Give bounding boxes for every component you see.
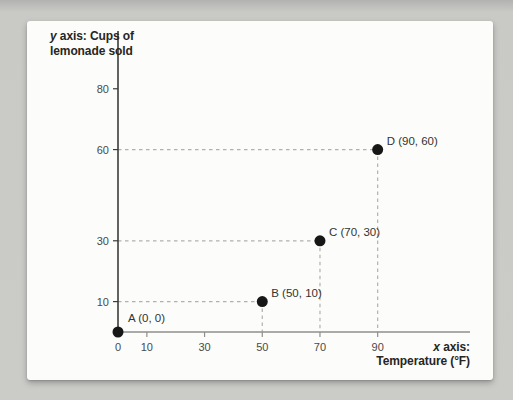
x-axis-title-text: axis: [440,340,470,354]
y-tick-label-60: 60 [97,144,109,156]
y-axis-title-text: axis: Cups of [57,29,135,43]
data-point-A [113,327,124,338]
x-tick-label-30: 30 [198,341,210,353]
x-tick-label-70: 70 [314,341,326,353]
point-label-B: B (50, 10) [271,287,322,299]
y-axis-title-line2: lemonade sold [50,44,133,58]
y-tick-label-80: 80 [97,83,109,95]
data-point-B [257,296,268,307]
x-axis-title-line1: x axis: [432,340,470,354]
data-point-D [372,144,383,155]
page-background: 0103050709010306080A (0, 0)B (50, 10)C (… [0,0,513,400]
x-tick-label-50: 50 [256,341,268,353]
x-tick-label-0: 0 [115,341,121,353]
data-point-C [314,235,325,246]
chart-card: 0103050709010306080A (0, 0)B (50, 10)C (… [27,21,493,380]
chart-plot-layer: 0103050709010306080A (0, 0)B (50, 10)C (… [97,31,470,353]
x-tick-label-10: 10 [141,341,153,353]
point-label-D: D (90, 60) [387,135,438,147]
x-axis-title-line2: Temperature (°F) [376,354,470,368]
y-tick-label-10: 10 [97,296,109,308]
lemonade-chart: 0103050709010306080A (0, 0)B (50, 10)C (… [27,21,493,380]
x-tick-label-90: 90 [372,341,384,353]
y-axis-title-line1: y axis: Cups of [49,29,135,43]
point-label-A: A (0, 0) [128,312,165,324]
point-label-C: C (70, 30) [329,226,380,238]
y-tick-label-30: 30 [97,235,109,247]
